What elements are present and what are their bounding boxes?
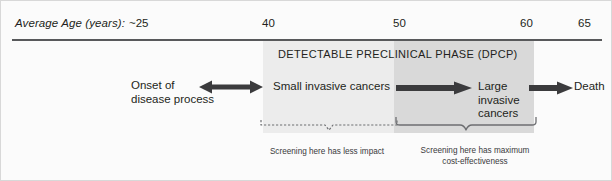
age-tick-60: 60 [520, 17, 533, 29]
age-tick-25: ~25 [129, 17, 149, 29]
caption-max-cost-effectiveness: Screening here has maximum cost-effectiv… [405, 146, 545, 167]
stage-label-large-invasive-cancers: Large invasive cancers [478, 80, 520, 121]
stage-label-large-line1: Large [478, 80, 520, 94]
double-headed-arrow-icon [199, 79, 263, 95]
caption-right-line2: cost-effectiveness [405, 157, 545, 168]
right-arrow-icon-small-to-large [396, 81, 472, 95]
cancer-natural-history-figure: Average Age (years): ~25 40 50 60 65 DET… [0, 0, 612, 181]
age-tick-40: 40 [262, 17, 275, 29]
dotted-bracket-left [259, 119, 399, 133]
caption-left-line1: Screening here has less impact [259, 147, 395, 158]
age-axis-header: Average Age (years): ~25 40 50 60 65 [1, 15, 612, 39]
stage-label-large-line2: invasive [478, 94, 520, 108]
solid-bracket-right [394, 117, 538, 133]
age-tick-65: 65 [578, 17, 591, 29]
caption-right-line1: Screening here has maximum [405, 146, 545, 157]
right-arrow-icon-large-to-death [529, 81, 573, 95]
age-axis-label: Average Age (years): [15, 17, 125, 29]
dpcp-phase-title: DETECTABLE PRECLINICAL PHASE (DPCP) [278, 48, 518, 60]
axis-divider-rule [12, 39, 602, 41]
age-tick-50: 50 [393, 17, 406, 29]
stage-label-death: Death [574, 80, 605, 94]
stage-label-small-invasive-cancers: Small invasive cancers [273, 80, 390, 94]
stage-label-small-line1: Small invasive cancers [273, 80, 390, 94]
caption-less-impact: Screening here has less impact [259, 147, 395, 158]
stage-label-death-line1: Death [574, 80, 605, 94]
